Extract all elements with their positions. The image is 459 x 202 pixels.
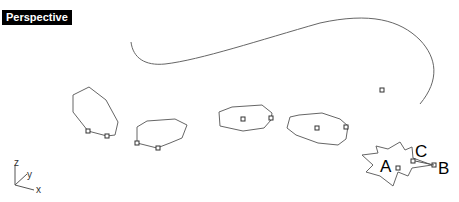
control-point[interactable]	[156, 146, 160, 150]
viewport-canvas[interactable]: A C B z y x	[0, 0, 459, 202]
control-point[interactable]	[135, 141, 139, 145]
point-a[interactable]	[396, 166, 400, 170]
freeform-curve[interactable]	[131, 18, 434, 104]
label-c: C	[415, 142, 427, 161]
label-a: A	[380, 157, 392, 176]
axis-z-label: z	[14, 157, 19, 168]
control-point[interactable]	[241, 117, 245, 121]
control-point[interactable]	[269, 116, 273, 120]
control-point[interactable]	[344, 125, 348, 129]
polygon-2[interactable]	[137, 119, 187, 148]
label-b: B	[438, 159, 449, 178]
polygon-1[interactable]	[73, 87, 118, 136]
axis-y-label: y	[27, 169, 32, 180]
control-point[interactable]	[380, 88, 384, 92]
control-point[interactable]	[315, 126, 319, 130]
axis-x-label: x	[36, 184, 41, 195]
control-point[interactable]	[86, 129, 90, 133]
control-point[interactable]	[105, 134, 109, 138]
